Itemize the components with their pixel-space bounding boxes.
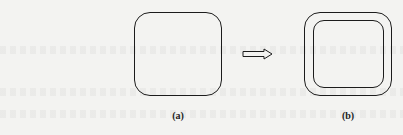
figure-canvas: (a) (b) xyxy=(0,0,403,135)
panel-a-label: (a) xyxy=(172,110,184,121)
panel-b-label: (b) xyxy=(342,110,354,121)
hollow-arrow-right-icon xyxy=(242,48,274,60)
panel-a-rounded-square xyxy=(134,12,222,96)
panel-b-inner-rounded-square xyxy=(313,20,384,88)
